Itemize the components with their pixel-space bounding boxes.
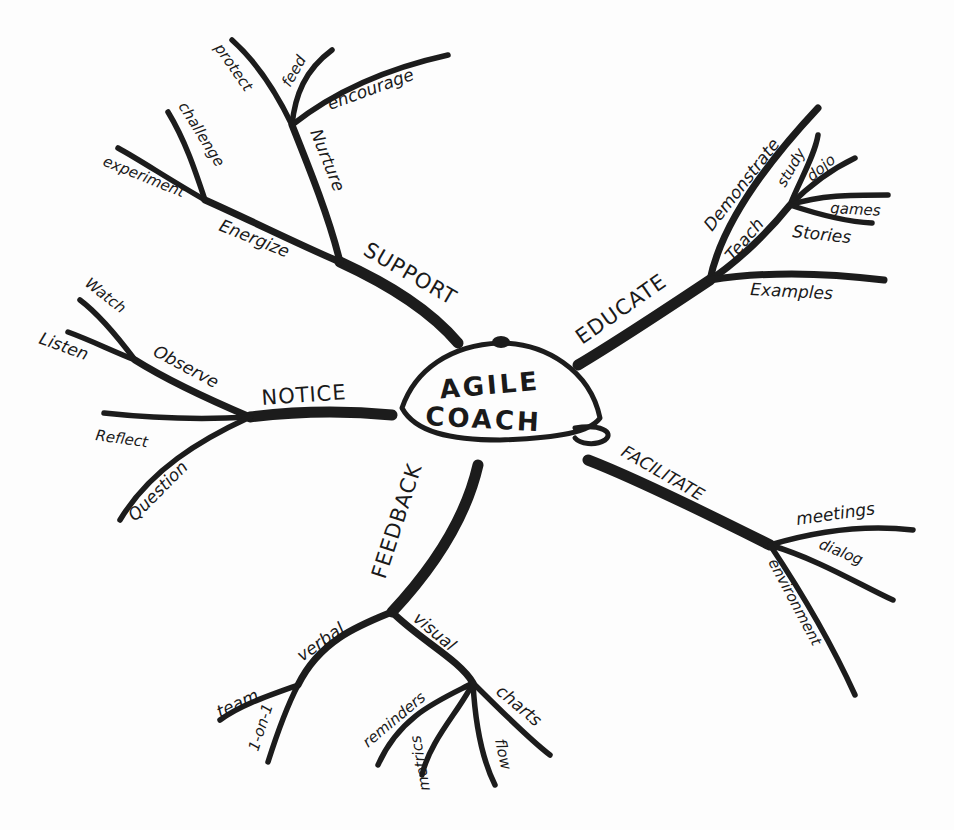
label-protect: protect (210, 39, 257, 95)
label-experiment: experiment (101, 152, 189, 201)
center-node[interactable]: AGILE COACH (402, 336, 608, 444)
label-question: Question (124, 457, 192, 525)
label-charts: charts (492, 681, 546, 731)
label-environment: environment (764, 555, 825, 649)
label-flow: flow (491, 737, 515, 772)
label-feedback: FEEDBACK (367, 460, 427, 581)
label-meetings: meetings (795, 498, 876, 529)
mind-map-canvas: AGILE COACH SUPPORT Energize experiment … (0, 0, 954, 830)
label-stories: Stories (792, 221, 853, 247)
center-line1: AGILE (438, 366, 541, 405)
branch-facilitate[interactable]: FACILITATE meetings dialog environment (588, 441, 913, 695)
label-listen: Listen (37, 328, 92, 364)
label-games: games (830, 199, 881, 220)
branch-feedback[interactable]: FEEDBACK verbal team 1-on-1 visual remin… (213, 460, 550, 792)
center-line2: COACH (425, 401, 543, 437)
label-demonstrate: Demonstrate (699, 134, 783, 234)
branch-support[interactable]: SUPPORT Energize experiment challenge Nu… (101, 39, 462, 343)
branch-educate[interactable]: EDUCATE Demonstrate Teach study dojo gam… (571, 108, 888, 365)
label-notice: NOTICE (261, 380, 348, 410)
knob-icon (492, 336, 510, 348)
label-metrics: metrics (406, 734, 434, 793)
label-encourage: encourage (325, 64, 417, 114)
label-reflect: Reflect (94, 426, 150, 451)
branch-notice[interactable]: NOTICE Observe Watch Listen Reflect Ques… (37, 274, 392, 525)
label-examples: Examples (750, 279, 834, 303)
